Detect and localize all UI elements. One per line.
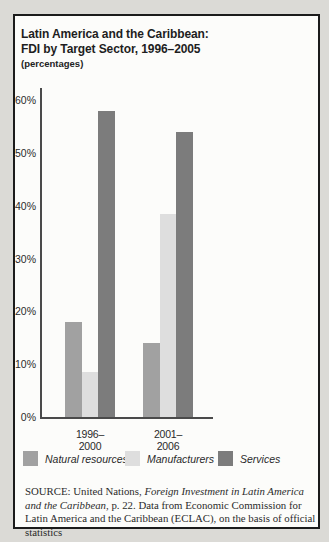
chart-title: Latin America and the Caribbean: FDI by …: [21, 27, 311, 57]
y-tick-label: 20%: [15, 305, 36, 317]
chart-title-line2: FDI by Target Sector, 1996–2005: [21, 42, 311, 57]
legend: Natural resourcesManufacturersServices: [15, 451, 318, 469]
bar-group: [65, 111, 115, 417]
y-tick-label: 30%: [15, 253, 36, 265]
bar-manufacturers: [160, 214, 177, 417]
legend-item: Services: [218, 451, 280, 466]
y-axis-line: [40, 88, 42, 419]
legend-item: Manufacturers: [125, 451, 214, 466]
chart-title-line1: Latin America and the Caribbean:: [21, 27, 311, 42]
x-category-label: 2001–2006: [143, 428, 193, 452]
bar-manufacturers: [82, 372, 99, 417]
x-axis-line: [40, 417, 213, 419]
legend-label: Manufacturers: [147, 453, 214, 465]
bar-group: [143, 132, 193, 417]
legend-swatch: [125, 451, 140, 466]
y-tick-label: 40%: [15, 200, 36, 212]
bar-natural-resources: [65, 322, 82, 417]
y-tick-label: 60%: [15, 94, 36, 106]
page-background: { "header": { "title_line1": "Latin Amer…: [0, 0, 329, 542]
y-tick-label: 10%: [15, 358, 36, 370]
x-category-label: 1996–2000: [65, 428, 115, 452]
legend-swatch: [23, 451, 38, 466]
legend-item: Natural resources: [23, 451, 128, 466]
bar-services: [176, 132, 193, 417]
legend-swatch: [218, 451, 233, 466]
source-text-segment: SOURCE: United Nations,: [25, 485, 144, 497]
source-note: SOURCE: United Nations, Foreign Investme…: [25, 485, 317, 539]
figure-card: Latin America and the Caribbean: FDI by …: [13, 14, 320, 529]
bar-services: [98, 111, 115, 417]
y-tick-label: 50%: [15, 147, 36, 159]
legend-label: Natural resources: [45, 453, 128, 465]
y-tick-label: 0%: [15, 411, 36, 423]
bar-natural-resources: [143, 343, 160, 417]
chart-subtitle: (percentages): [21, 58, 83, 69]
legend-label: Services: [240, 453, 280, 465]
